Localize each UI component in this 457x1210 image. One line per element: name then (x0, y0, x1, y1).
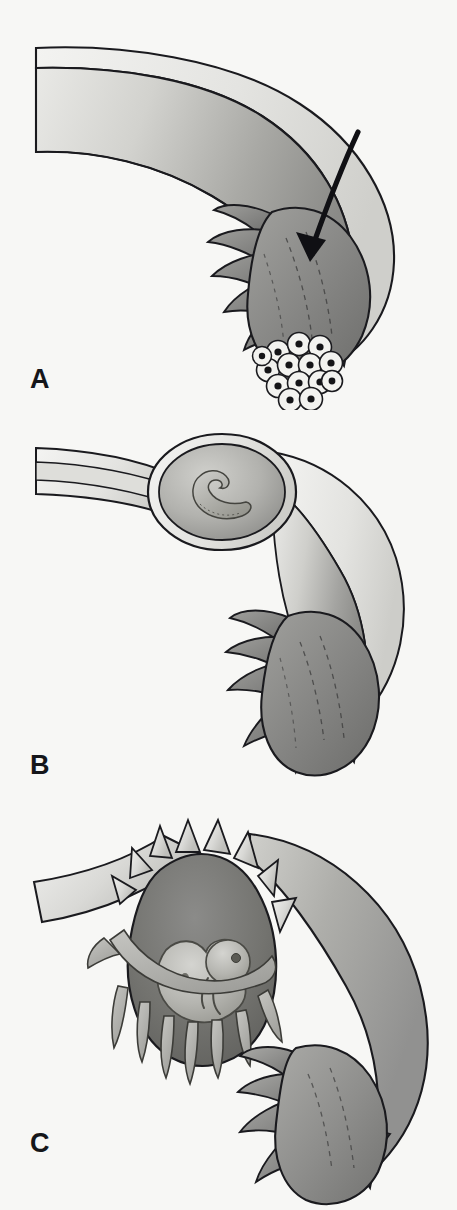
panel-a-label: A (30, 366, 50, 393)
morula-cell (322, 371, 343, 392)
tear-spike (176, 820, 200, 852)
tear-spike (272, 898, 296, 932)
panel-b: B (0, 400, 457, 795)
panel-c-label: C (30, 1130, 50, 1157)
villus (211, 1020, 223, 1078)
ectopic-pregnancy-figure: A (0, 0, 457, 1210)
villus (185, 1022, 198, 1084)
morula-cell (288, 333, 311, 356)
fetus-eye (232, 954, 241, 963)
panel-b-illustration (0, 400, 457, 795)
panel-a: A (0, 0, 457, 410)
morula-cell (253, 347, 272, 366)
villus (137, 1002, 150, 1062)
panel-a-illustration (0, 0, 457, 410)
villus (112, 986, 128, 1048)
villus (161, 1016, 174, 1078)
fimbriae-group (226, 611, 379, 776)
tear-spike (204, 820, 230, 854)
panel-c: C (0, 790, 457, 1210)
tubal-swelling (148, 434, 296, 550)
panel-b-label: B (30, 752, 50, 779)
panel-c-illustration (0, 790, 457, 1210)
fimbriae-group (238, 1045, 390, 1204)
